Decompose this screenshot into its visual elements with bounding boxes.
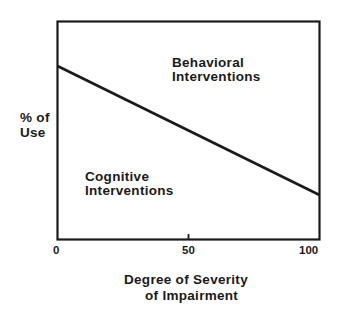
cognitive-region-label: Cognitive Interventions xyxy=(85,170,174,198)
behavioral-label-line-1: Behavioral xyxy=(172,56,261,70)
x-tick-label-0: 0 xyxy=(53,244,59,256)
intervention-severity-chart: % of Use Behavioral Interventions Cognit… xyxy=(0,0,339,318)
y-axis-label: % of Use xyxy=(20,111,50,140)
x-tick-label-50: 50 xyxy=(182,244,195,256)
cognitive-label-line-2: Interventions xyxy=(85,184,174,198)
behavioral-region-label: Behavioral Interventions xyxy=(172,56,261,84)
y-axis-label-line-2: Use xyxy=(20,126,50,140)
y-axis-label-line-1: % of xyxy=(20,111,50,125)
x-axis-label-line-1: Degree of Severity xyxy=(124,273,248,287)
behavioral-label-line-2: Interventions xyxy=(172,70,261,84)
x-tick-label-100: 100 xyxy=(299,244,318,256)
cognitive-label-line-1: Cognitive xyxy=(85,170,174,184)
x-axis-label-line-2: of Impairment xyxy=(124,289,248,303)
x-axis-label: Degree of Severity of Impairment xyxy=(124,273,248,303)
chart-plot-area xyxy=(0,0,339,318)
